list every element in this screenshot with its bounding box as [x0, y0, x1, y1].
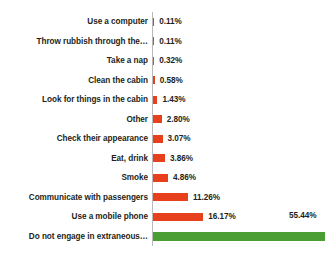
category-label: Check their appearance	[57, 129, 148, 149]
bar-segment[interactable]	[153, 213, 203, 221]
bar-segment[interactable]	[153, 135, 163, 143]
bar-segment[interactable]	[153, 232, 325, 241]
bar-row[interactable]: Clean the cabin 0.58%	[0, 71, 336, 91]
bar-row[interactable]: Throw rubbish through the… 0.11%	[0, 32, 336, 52]
bar-row[interactable]: Communicate with passengers 11.26%	[0, 188, 336, 208]
category-label: Use a computer	[87, 12, 148, 32]
bar-container: 3.07%	[153, 129, 190, 149]
category-label: Other	[126, 110, 148, 130]
value-label: 3.86%	[170, 154, 193, 163]
bar-row[interactable]: Eat, drink 3.86%	[0, 149, 336, 169]
bar-container: 16.17%	[153, 207, 236, 227]
bar-container: 0.32%	[153, 51, 182, 71]
plot-area: Use a computer 0.11% Throw rubbish throu…	[0, 12, 336, 246]
value-label: 11.26%	[193, 193, 220, 202]
bar-row[interactable]: Use a computer 0.11%	[0, 12, 336, 32]
value-label: 4.86%	[173, 173, 196, 182]
category-axis-line	[152, 12, 153, 246]
value-label: 0.11%	[159, 17, 182, 26]
value-label: 2.80%	[167, 115, 190, 124]
bar-row[interactable]: Do not engage in extraneous… 55.44%	[0, 227, 336, 247]
bar-container: 3.86%	[153, 149, 193, 169]
bar-container: 0.11%	[153, 12, 182, 32]
category-label: Throw rubbish through the…	[37, 32, 149, 52]
category-label: Smoke	[121, 168, 148, 188]
bar-row[interactable]: Look for things in the cabin 1.43%	[0, 90, 336, 110]
value-label: 0.58%	[160, 76, 183, 85]
bar-segment[interactable]	[153, 174, 168, 182]
value-label: 3.07%	[168, 134, 191, 143]
bar-container: 11.26%	[153, 188, 220, 208]
bar-row[interactable]: Smoke 4.86%	[0, 168, 336, 188]
category-label: Look for things in the cabin	[42, 90, 148, 110]
bar-container: 1.43%	[153, 90, 185, 110]
bar-row[interactable]: Use a mobile phone 16.17%	[0, 207, 336, 227]
bar-segment[interactable]	[153, 154, 165, 162]
category-label: Clean the cabin	[88, 71, 148, 91]
value-label: 55.44%	[289, 211, 316, 220]
bar-segment[interactable]	[153, 76, 155, 84]
bar-container: 55.44%	[153, 227, 325, 247]
category-label: Eat, drink	[111, 149, 148, 169]
bar-row[interactable]: Other 2.80%	[0, 110, 336, 130]
bar-container: 0.11%	[153, 32, 182, 52]
category-label: Use a mobile phone	[72, 207, 148, 227]
bar-segment[interactable]	[153, 37, 154, 45]
bar-row[interactable]: Check their appearance 3.07%	[0, 129, 336, 149]
value-label: 16.17%	[208, 212, 235, 221]
bar-container: 4.86%	[153, 168, 196, 188]
bar-segment[interactable]	[153, 18, 154, 26]
category-label: Take a nap	[107, 51, 148, 71]
category-label: Communicate with passengers	[29, 188, 148, 208]
bar-segment[interactable]	[153, 193, 188, 201]
category-label: Do not engage in extraneous…	[29, 227, 148, 247]
bar-chart: Use a computer 0.11% Throw rubbish throu…	[0, 0, 336, 258]
bar-container: 0.58%	[153, 71, 183, 91]
bar-row[interactable]: Take a nap 0.32%	[0, 51, 336, 71]
bar-segment[interactable]	[153, 96, 157, 104]
value-label: 1.43%	[162, 95, 185, 104]
bar-container: 2.80%	[153, 110, 190, 130]
bar-segment[interactable]	[153, 115, 162, 123]
value-label: 0.32%	[159, 56, 182, 65]
bar-segment[interactable]	[153, 57, 154, 65]
value-label: 0.11%	[159, 37, 182, 46]
